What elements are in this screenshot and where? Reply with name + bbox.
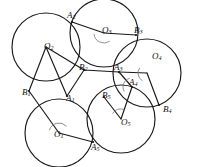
angle-mark-O4 [138,68,142,81]
five-circles-diagram: O1O2O3O4O5A1A2A3A4A5B1B2B3B4B5 [0,0,200,167]
point-label-a4: A4 [128,77,138,88]
segment-O4-A3 [119,72,147,73]
point-label-b3: B3 [134,25,143,36]
segment-O1-B1 [29,91,59,133]
vertex-a2 [71,21,73,23]
segment-O1-A5 [59,133,93,142]
point-label-b4: B4 [163,104,172,115]
point-label-a1: A1 [65,93,75,104]
center-label-o3: O3 [102,25,112,36]
segment-O2-A1 [46,47,67,96]
segment-O2-B1 [29,47,46,91]
center-label-o5: O5 [121,117,131,128]
center-label-o2: O2 [44,41,54,52]
center-label-o4: O4 [152,51,162,62]
circles-layer [12,0,181,167]
center-label-o1: O1 [54,129,64,140]
point-label-a2: A2 [66,10,76,21]
angle-mark-O3 [94,34,110,43]
vertex-b4 [158,104,160,106]
geometry-figure-canvas: O1O2O3O4O5A1A2A3A4A5B1B2B3B4B5 [0,0,200,167]
point-label-b5: B5 [102,90,111,101]
point-label-b2: B2 [79,62,88,73]
point-label-a3: A3 [113,62,123,73]
